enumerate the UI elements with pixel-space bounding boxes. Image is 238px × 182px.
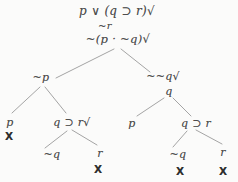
closure-x-left-p: X <box>5 131 13 142</box>
closure-x-left-r: X <box>94 164 102 175</box>
branch-left-impl-to-r <box>72 130 97 145</box>
left-subtree-r: r <box>97 148 103 159</box>
right-branch-not-not-q: ~~q√ <box>146 71 180 82</box>
premise-not-p-and-not-q: ~(p · ~q)√ <box>86 34 150 46</box>
proof-tree-canvas: p ∨ (q ⊃ r)√~r~(p · ~q)√~p~~q√qpq ⊃ r√pq… <box>0 0 238 182</box>
branch-not-p-to-p <box>12 87 40 113</box>
left-right-q-implies-r: q ⊃ r√ <box>53 117 90 128</box>
premise-not-r: ~r <box>98 21 112 31</box>
left-subtree-not-q: ~q <box>44 149 61 160</box>
root-formula: p ∨ (q ⊃ r)√ <box>79 5 155 17</box>
left-branch-not-p: ~p <box>33 72 50 83</box>
branch-q-to-p <box>137 98 164 116</box>
branch-lines <box>0 0 238 182</box>
branch-right-impl-to-not-q <box>173 131 187 147</box>
branch-not-p-to-q-implies-r <box>45 87 66 113</box>
branch-left-impl-to-not-q <box>45 131 67 148</box>
branch-q-to-q-implies-r <box>173 98 191 116</box>
branch-right-impl-to-r <box>196 130 222 144</box>
left-left-p: p <box>6 117 13 128</box>
right-left-p: p <box>128 118 135 129</box>
right-subtree-not-q: ~q <box>170 149 187 160</box>
branch-root-to-not-p <box>56 49 114 78</box>
right-branch-q: q <box>165 86 172 97</box>
right-subtree-r: r <box>220 147 226 158</box>
right-right-q-implies-r: q ⊃ r <box>181 118 211 129</box>
closure-x-right-r: X <box>219 166 227 177</box>
closure-x-right-not-q: X <box>176 166 184 177</box>
